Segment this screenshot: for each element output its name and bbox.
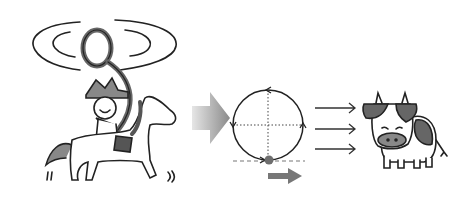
- circular-motion-diagram: [230, 87, 306, 184]
- thin-arrow-icon: [315, 103, 355, 113]
- thin-arrow-icon: [315, 144, 355, 154]
- cow-icon: [363, 93, 447, 168]
- thin-arrow-icon: [315, 124, 355, 134]
- motion-marks-icon: [47, 172, 52, 180]
- force-arrows: [315, 103, 355, 154]
- contact-point-dot: [265, 156, 274, 165]
- linear-motion-arrow-icon: [268, 168, 302, 184]
- cowboy-panel: [33, 20, 176, 182]
- big-right-arrow-icon: [192, 92, 230, 144]
- diagram-canvas: [0, 0, 474, 198]
